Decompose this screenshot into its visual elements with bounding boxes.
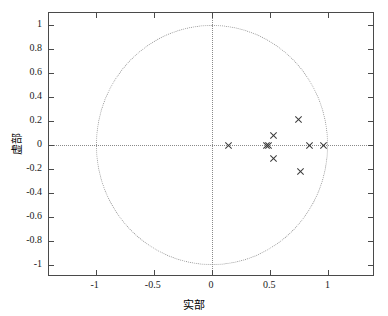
y-tick-mark xyxy=(49,217,54,218)
x-tick-mark xyxy=(328,270,329,275)
y-tick-mark xyxy=(49,25,54,26)
x-tick-label: 0.5 xyxy=(249,280,289,290)
y-tick-mark-right xyxy=(368,241,373,242)
y-tick-mark-right xyxy=(368,265,373,266)
x-tick-label: -0.5 xyxy=(133,280,173,290)
x-tick-mark-top xyxy=(270,13,271,18)
y-tick-label: -0.6 xyxy=(8,211,42,221)
data-point-marker xyxy=(263,141,272,150)
y-tick-label: -0.8 xyxy=(8,235,42,245)
x-axis-title: 实部 xyxy=(0,296,388,312)
plot-axes-frame xyxy=(48,12,374,276)
zplane-pole-zero-plot: 虚部 实部 -1-0.500.5110.80.60.40.20-0.2-0.4-… xyxy=(0,0,388,316)
x-tick-mark-top xyxy=(154,13,155,18)
y-tick-mark-right xyxy=(368,121,373,122)
x-tick-mark xyxy=(154,270,155,275)
y-tick-mark xyxy=(49,145,54,146)
y-tick-mark xyxy=(49,241,54,242)
x-tick-mark xyxy=(270,270,271,275)
y-tick-mark-right xyxy=(368,25,373,26)
y-tick-label: 1 xyxy=(8,19,42,29)
y-tick-label: 0.6 xyxy=(8,67,42,77)
y-tick-label: 0.8 xyxy=(8,43,42,53)
data-point-marker xyxy=(224,141,233,150)
x-tick-mark xyxy=(212,270,213,275)
data-point-marker xyxy=(296,167,305,176)
y-tick-mark xyxy=(49,97,54,98)
data-point-marker xyxy=(318,141,327,150)
y-tick-label: -0.4 xyxy=(8,187,42,197)
data-point-marker xyxy=(294,115,303,124)
x-tick-mark-top xyxy=(212,13,213,18)
y-tick-mark xyxy=(49,49,54,50)
x-tick-label: 1 xyxy=(307,280,347,290)
y-tick-mark-right xyxy=(368,73,373,74)
y-tick-label: 0 xyxy=(8,139,42,149)
y-tick-label: 0.2 xyxy=(8,115,42,125)
y-tick-mark xyxy=(49,121,54,122)
x-tick-mark xyxy=(96,270,97,275)
y-tick-label: 0.4 xyxy=(8,91,42,101)
data-point-marker xyxy=(304,141,313,150)
y-tick-mark-right xyxy=(368,97,373,98)
y-tick-mark xyxy=(49,193,54,194)
data-point-marker xyxy=(268,154,277,163)
unit-circle xyxy=(96,25,329,265)
y-tick-label: -0.2 xyxy=(8,163,42,173)
y-tick-mark xyxy=(49,73,54,74)
y-tick-mark-right xyxy=(368,193,373,194)
y-tick-mark-right xyxy=(368,145,373,146)
y-tick-mark xyxy=(49,265,54,266)
x-tick-label: 0 xyxy=(191,280,231,290)
y-tick-label: -1 xyxy=(8,259,42,269)
x-tick-label: -1 xyxy=(75,280,115,290)
data-point-marker xyxy=(268,131,277,140)
y-tick-mark xyxy=(49,169,54,170)
y-tick-mark-right xyxy=(368,217,373,218)
y-tick-mark-right xyxy=(368,169,373,170)
x-tick-mark-top xyxy=(96,13,97,18)
y-tick-mark-right xyxy=(368,49,373,50)
x-tick-mark-top xyxy=(328,13,329,18)
